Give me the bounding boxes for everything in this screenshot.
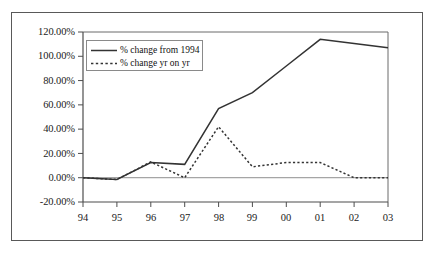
chart-legend: % change from 1994 % change yr on yr [86, 40, 203, 71]
legend-dotted-line-icon [91, 59, 117, 68]
legend-solid-line-icon [91, 46, 117, 55]
y-tick-label: 20.00% [16, 148, 75, 159]
x-tick-label: 00 [271, 212, 301, 223]
x-axis-ticks [83, 202, 388, 207]
x-tick-label: 95 [102, 212, 132, 223]
y-tick-label: 40.00% [16, 123, 75, 134]
y-tick-label: 100.00% [16, 50, 75, 61]
x-tick-label: 97 [170, 212, 200, 223]
x-tick-label: 03 [373, 212, 403, 223]
y-tick-label: 60.00% [16, 99, 75, 110]
legend-label: % change from 1994 [120, 45, 199, 56]
y-tick-label: 80.00% [16, 75, 75, 86]
y-axis-ticks [78, 32, 83, 202]
legend-item-pct-change-from-1994: % change from 1994 [91, 43, 199, 57]
y-tick-label: 120.00% [16, 26, 75, 37]
x-tick-label: 01 [305, 212, 335, 223]
chart-figure: 120.00% 100.00% 80.00% 60.00% 40.00% 20.… [0, 0, 441, 254]
series-line-pct-change-yr-on-yr [83, 127, 388, 180]
x-tick-label: 98 [204, 212, 234, 223]
y-tick-label: -20.00% [16, 196, 75, 207]
legend-item-pct-change-yr-on-yr: % change yr on yr [91, 56, 190, 70]
x-tick-label: 99 [237, 212, 267, 223]
x-tick-label: 94 [68, 212, 98, 223]
legend-label: % change yr on yr [120, 58, 190, 69]
y-tick-label: 0.00% [16, 172, 75, 183]
x-tick-label: 02 [339, 212, 369, 223]
x-tick-label: 96 [136, 212, 166, 223]
